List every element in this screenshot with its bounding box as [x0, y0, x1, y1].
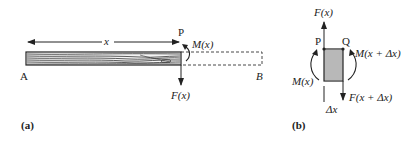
point-q-label: Q [342, 35, 350, 47]
point-p-label: P [178, 26, 184, 38]
dashed-beam-extension [181, 52, 262, 65]
point-b-label: B [256, 70, 263, 82]
beam-diagram: x P M(x) F(x) A B (a) [0, 0, 420, 141]
moment-label: M(x) [191, 38, 214, 51]
figure-a: x P M(x) F(x) A B (a) [20, 26, 263, 132]
moment-right-label: M(x + Δx) [354, 47, 401, 60]
length-label: x [103, 35, 109, 47]
caption-b: (b) [292, 119, 306, 132]
width-label: Δx [325, 103, 337, 115]
caption-a: (a) [21, 119, 34, 132]
beam-element [322, 47, 344, 81]
force-top-label: F(x) [313, 6, 333, 19]
wooden-beam [26, 52, 181, 65]
moment-left-label: M(x) [291, 75, 314, 88]
moment-arrowhead-icon [182, 44, 188, 50]
point-p-label: P [315, 35, 321, 47]
point-a-label: A [20, 70, 28, 82]
force-label: F(x) [170, 89, 190, 102]
figure-b: F(x) P Q M(x + Δx) M(x) F(x + Δx) Δx (b) [291, 6, 401, 132]
force-bottom-label: F(x + Δx) [348, 91, 393, 104]
